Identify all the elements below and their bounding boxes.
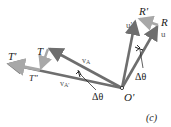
figure-caption: (c) [146, 112, 158, 124]
label-T: T [37, 45, 44, 57]
label-R: R [160, 16, 168, 28]
label-T-dprime: T" [29, 73, 38, 83]
label-delta-theta-left: Δθ [92, 91, 103, 102]
vector-R-to-R-prime [140, 19, 158, 25]
label-u: u [161, 29, 166, 39]
vector-rotation-diagram: T' T T" vA vA' Δθ R' R u' u Δθ O' (c) [0, 0, 171, 127]
label-origin: O' [124, 91, 135, 103]
label-vA-prime: vA' [60, 79, 69, 88]
label-R-prime: R' [138, 5, 149, 17]
label-delta-theta-right: Δθ [135, 71, 146, 82]
label-u-prime: u' [126, 20, 133, 30]
label-T-prime: T' [8, 50, 17, 62]
label-vA: vA [82, 56, 91, 65]
origin-point [120, 86, 123, 89]
vector-T-dprime-to-T-prime [10, 64, 40, 70]
